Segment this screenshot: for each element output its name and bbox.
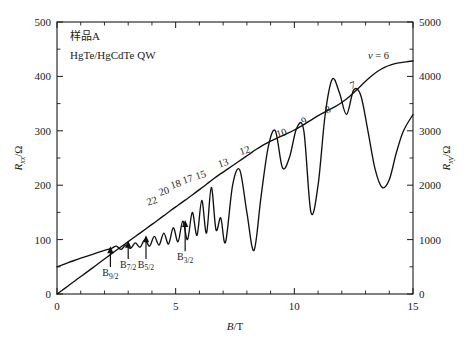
filling-factor-label: 12 (238, 143, 251, 157)
svg-text:400: 400 (35, 70, 52, 82)
filling-factor-label: 18 (169, 177, 182, 191)
field-marker-label: B9/2 (102, 267, 119, 281)
filling-factor-label: 10 (275, 126, 288, 140)
svg-text:500: 500 (35, 16, 52, 28)
filling-factor-label: 15 (194, 168, 207, 182)
svg-text:0: 0 (419, 288, 425, 300)
svg-text:2000: 2000 (419, 179, 442, 191)
figure-container: 0510150100200300400500010002000300040005… (0, 0, 468, 343)
filling-factor-label: 9 (300, 115, 308, 127)
svg-text:1000: 1000 (419, 234, 442, 246)
svg-text:300: 300 (35, 125, 52, 137)
rxx-curve (57, 78, 413, 266)
y-axis-right-label: Rxy/Ω (440, 145, 455, 171)
filling-factor-label: 22 (145, 194, 158, 208)
svg-text:15: 15 (408, 300, 420, 312)
sample-name-annotation: 样品A (70, 29, 100, 42)
svg-text:10: 10 (289, 300, 301, 312)
field-marker-label: B3/2 (177, 251, 194, 265)
svg-text:5: 5 (173, 300, 179, 312)
svg-text:5000: 5000 (419, 16, 442, 28)
field-marker: B3/2 (177, 220, 194, 265)
material-annotation: HgTe/HgCdTe QW (70, 49, 156, 61)
filling-factor-label: 17 (181, 172, 194, 186)
y-axis-left-label: Rxx/Ω (12, 145, 27, 171)
field-marker-label: B5/2 (138, 259, 155, 273)
field-marker-label: B7/2 (120, 259, 137, 273)
filling-factor-labels: 2220181715131210987 (145, 79, 356, 208)
svg-text:3000: 3000 (419, 125, 442, 137)
svg-text:0: 0 (54, 300, 60, 312)
filling-factor-label: 13 (217, 156, 230, 170)
nu-6-label: v = 6 (368, 50, 389, 61)
field-marker: B9/2 (102, 246, 119, 280)
svg-text:100: 100 (35, 234, 52, 246)
filling-factor-label: 20 (157, 184, 170, 198)
svg-text:200: 200 (35, 179, 52, 191)
filling-factor-label: 7 (348, 79, 356, 91)
x-axis-label: B/T (227, 320, 244, 332)
svg-text:4000: 4000 (419, 70, 442, 82)
shubnikov-de-haas-chart: 0510150100200300400500010002000300040005… (0, 0, 468, 343)
svg-text:0: 0 (46, 288, 52, 300)
